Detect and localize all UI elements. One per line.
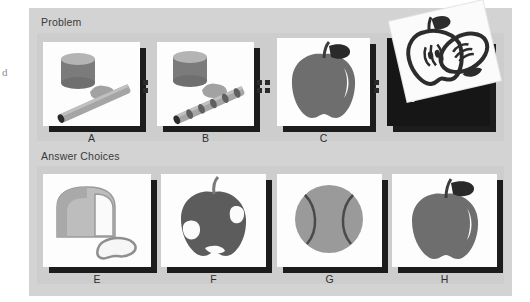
answer-panel-e-letter: E (43, 273, 151, 285)
panel-face (43, 174, 151, 267)
bread-loaf-slice-icon (43, 174, 151, 267)
answer-panel-h-letter: H (392, 273, 497, 285)
cylinder-blob-sliced-rod-icon (157, 42, 254, 126)
problem-panel-b[interactable] (157, 42, 254, 126)
answer-panel-e[interactable] (43, 174, 151, 267)
panel-face (277, 38, 370, 126)
cylinder-blob-rod-icon (43, 42, 140, 126)
problem-panel-c[interactable] (277, 38, 370, 126)
answer-panel-f-letter: F (161, 273, 266, 285)
scanned-page: d Problem (0, 0, 530, 302)
problem-panel-a-letter: A (43, 132, 140, 144)
panel-face (277, 174, 382, 267)
problem-panel-c-letter: C (277, 132, 370, 144)
answer-choices-section-label: Answer Choices (41, 150, 120, 162)
problem-section-label: Problem (41, 16, 82, 28)
panel-face (157, 42, 254, 126)
answer-panel-g[interactable] (277, 174, 382, 267)
separator-a-b (143, 80, 148, 93)
separator-b-c (257, 80, 270, 93)
margin-cut-glyph: d (2, 66, 8, 78)
panel-face (392, 174, 497, 267)
answer-panel-h[interactable] (392, 174, 497, 267)
ball-icon (277, 174, 382, 267)
problem-panel-a[interactable] (43, 42, 140, 126)
bitten-apple-icon (161, 174, 266, 267)
whole-apple-icon (277, 38, 370, 126)
whole-apple-icon (392, 174, 497, 267)
problem-panel-b-letter: B (157, 132, 254, 144)
separator-c-d (374, 80, 379, 93)
panel-face (43, 42, 140, 126)
answer-panel-g-letter: G (277, 273, 382, 285)
problem-card: Problem (29, 8, 512, 296)
answer-panel-f[interactable] (161, 174, 266, 267)
panel-face (161, 174, 266, 267)
